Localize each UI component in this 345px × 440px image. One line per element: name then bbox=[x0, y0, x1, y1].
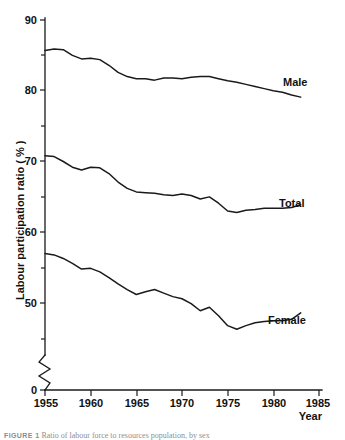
x-axis-title: Year bbox=[299, 410, 323, 422]
series-line-male bbox=[45, 49, 301, 97]
x-axis-ticks bbox=[45, 390, 319, 396]
series-label-female: Female bbox=[268, 314, 306, 326]
y-tick-label-0: 0 bbox=[31, 384, 37, 396]
x-tick-label-1960: 1960 bbox=[79, 397, 103, 409]
y-tick-label-70: 70 bbox=[25, 155, 37, 167]
x-tick-label-1975: 1975 bbox=[216, 397, 240, 409]
y-tick-label-60: 60 bbox=[25, 226, 37, 238]
y-axis-break-zigzag bbox=[39, 355, 50, 390]
x-tick-label-1955: 1955 bbox=[34, 397, 58, 409]
figure-caption: FIGURE 1 Ratio of labour force to resour… bbox=[4, 431, 345, 440]
series-label-total: Total bbox=[279, 197, 304, 209]
y-axis-major-ticks bbox=[40, 20, 45, 390]
x-tick-label-1970: 1970 bbox=[170, 397, 194, 409]
y-tick-label-80: 80 bbox=[25, 84, 37, 96]
series-line-total bbox=[45, 156, 301, 213]
y-tick-label-90: 90 bbox=[25, 14, 37, 26]
x-tick-label-1985: 1985 bbox=[306, 397, 330, 409]
series-label-male: Male bbox=[283, 76, 307, 88]
series-line-female bbox=[45, 253, 301, 329]
y-axis-title: Labour participation ratio ( % ) bbox=[14, 140, 26, 300]
x-tick-label-1965: 1965 bbox=[125, 397, 149, 409]
figure-caption-body: Ratio of labour force to resources popul… bbox=[41, 431, 209, 440]
figure-caption-label: FIGURE 1 bbox=[4, 432, 39, 439]
x-tick-label-1980: 1980 bbox=[262, 397, 286, 409]
y-tick-label-50: 50 bbox=[25, 297, 37, 309]
